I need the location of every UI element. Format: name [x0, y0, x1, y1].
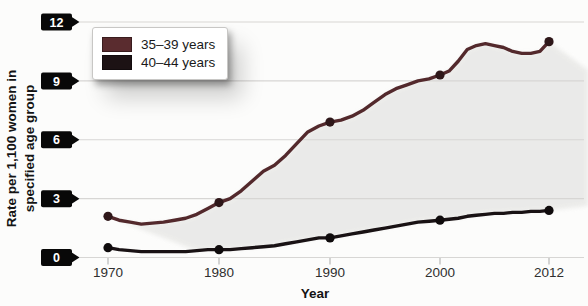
- y-tick-arrow-icon-12: [71, 17, 80, 28]
- y-tick-arrow-icon-3: [71, 193, 80, 204]
- chart-figure: 19701980199020002012036912 Rate per 1,10…: [0, 0, 588, 306]
- x-tick-label-1990: 1990: [315, 265, 345, 280]
- y-axis-title: Rate per 1,100 women in specified age gr…: [3, 24, 38, 274]
- marker-35-39-years-1990: [325, 117, 334, 126]
- legend-item-35-39: 35–39 years: [102, 37, 215, 52]
- y-axis-title-line1: Rate per 1,100 women in: [3, 24, 21, 274]
- y-tick-label-12: 12: [50, 16, 64, 30]
- legend-item-40-44: 40–44 years: [102, 55, 215, 70]
- marker-40-44-years-2012: [544, 206, 553, 215]
- y-tick-label-0: 0: [53, 251, 60, 265]
- legend-swatch-35-39-icon: [102, 37, 132, 52]
- marker-40-44-years-1990: [325, 233, 334, 242]
- marker-40-44-years-2000: [435, 216, 444, 225]
- marker-35-39-years-1980: [214, 198, 223, 207]
- marker-35-39-years-1970: [103, 212, 112, 221]
- legend-swatch-40-44-icon: [102, 55, 132, 70]
- x-tick-label-1970: 1970: [93, 265, 123, 280]
- x-tick-label-2012: 2012: [534, 265, 564, 280]
- y-tick-arrow-icon-0: [71, 252, 80, 263]
- y-tick-label-9: 9: [53, 75, 60, 89]
- legend-label-40-44: 40–44 years: [141, 55, 215, 70]
- marker-40-44-years-1970: [103, 243, 112, 252]
- legend: 35–39 years 40–44 years: [92, 27, 228, 80]
- marker-35-39-years-2012: [544, 37, 553, 46]
- marker-35-39-years-2000: [435, 70, 444, 79]
- y-tick-arrow-icon-6: [71, 134, 80, 145]
- marker-40-44-years-1980: [214, 245, 223, 254]
- x-tick-label-2000: 2000: [425, 265, 455, 280]
- y-tick-label-6: 6: [53, 133, 60, 147]
- legend-label-35-39: 35–39 years: [141, 37, 215, 52]
- x-axis-title: Year: [80, 286, 550, 301]
- x-tick-label-1980: 1980: [204, 265, 234, 280]
- y-tick-label-3: 3: [53, 192, 60, 206]
- y-tick-arrow-icon-9: [71, 75, 80, 86]
- chart-canvas: 19701980199020002012036912: [0, 0, 588, 306]
- y-axis-title-line2: specified age group: [21, 24, 39, 274]
